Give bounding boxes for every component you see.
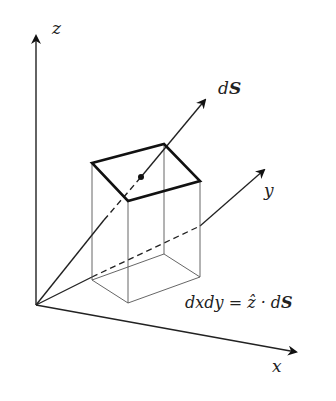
equation-S: S <box>281 293 293 312</box>
x-axis-label: x <box>272 358 282 375</box>
diagram-canvas <box>0 0 336 401</box>
equation-dot: · d <box>256 293 282 312</box>
x-axis <box>36 305 296 352</box>
y-axis-label: y <box>264 182 274 199</box>
dS-label-S: S <box>229 78 241 98</box>
dS-vector <box>36 100 205 305</box>
equation-zhat: ẑ <box>247 293 255 312</box>
volume-box <box>92 144 200 303</box>
surface-element <box>92 144 200 201</box>
z-axis-label: z <box>52 20 61 37</box>
dS-label: dS <box>218 80 241 97</box>
surface-center-dot <box>138 174 144 180</box>
equation-lhs: dxdy = <box>185 293 247 312</box>
equation: dxdy = ẑ · dS <box>185 295 293 311</box>
y-axis <box>36 170 264 305</box>
dS-label-d: d <box>218 78 229 98</box>
